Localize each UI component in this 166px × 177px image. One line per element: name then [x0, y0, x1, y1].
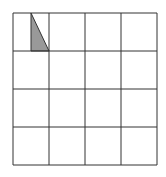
grid-diagram	[0, 0, 166, 177]
